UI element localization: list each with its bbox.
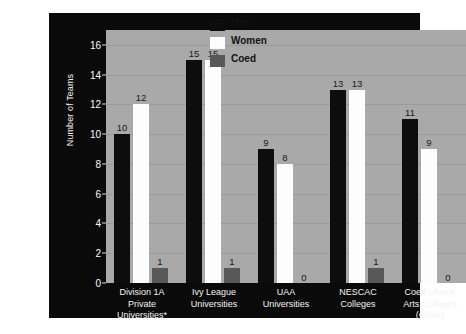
x-axis-label-line: Coed Liberal: [394, 287, 466, 299]
x-axis-label: UAAUniversities: [250, 287, 322, 310]
chart-panel: Number of Teams 0246810121416 1012115151…: [49, 13, 420, 318]
bar-value-label: 9: [426, 137, 431, 148]
y-tick-label: 10: [61, 129, 101, 140]
x-axis-label-line: (Other): [394, 310, 466, 322]
bar-value-label: 8: [282, 152, 287, 163]
bar-value-label: 1: [373, 256, 378, 267]
y-tick-label: 0: [61, 278, 101, 289]
y-tick-label: 12: [61, 99, 101, 110]
bar-value-label: 0: [445, 272, 450, 283]
bar-women[interactable]: 12: [133, 104, 150, 283]
bar-group: 1190: [394, 30, 466, 283]
legend-swatch-icon: [210, 37, 225, 49]
bar-group: 13131: [322, 30, 394, 283]
plot-area: 0246810121416 1012115151980131311190: [106, 30, 466, 283]
y-tick-label: 6: [61, 188, 101, 199]
bar-value-label: 13: [352, 78, 363, 89]
x-axis-label-line: Arts Colleges: [394, 299, 466, 311]
x-axis-label-line: Universities: [178, 299, 250, 311]
bar-men[interactable]: 15: [186, 60, 203, 283]
bar-value-label: 11: [405, 107, 415, 118]
bar-women[interactable]: 13: [349, 90, 366, 283]
bar-women[interactable]: 8: [277, 164, 294, 283]
legend-label: Women: [231, 35, 267, 46]
x-axis-label-line: UAA: [250, 287, 322, 299]
y-tick-label: 8: [61, 158, 101, 169]
x-axis-label-line: Private: [106, 299, 178, 311]
x-axis-labels: Division 1APrivateUniversities*Ivy Leagu…: [106, 287, 466, 331]
bar-value-label: 13: [333, 78, 344, 89]
x-axis-label-line: NESCAC: [322, 287, 394, 299]
bar-women[interactable]: 9: [421, 149, 438, 283]
bar-coed[interactable]: 1: [224, 268, 241, 283]
x-axis-label-line: Division 1A: [106, 287, 178, 299]
bar-value-label: 1: [157, 256, 162, 267]
legend-swatch-icon: [210, 55, 225, 67]
bar-coed[interactable]: 1: [368, 268, 385, 283]
bar-value-label: 0: [301, 272, 306, 283]
bar-group: 10121: [106, 30, 178, 283]
y-tick-label: 16: [61, 39, 101, 50]
legend-label: Men: [231, 17, 251, 28]
bar-coed[interactable]: 1: [152, 268, 169, 283]
x-axis-label-line: Colleges: [322, 299, 394, 311]
bar-value-label: 12: [136, 92, 147, 103]
x-axis-label: Coed LiberalArts Colleges(Other): [394, 287, 466, 322]
x-axis-label-line: Ivy League: [178, 287, 250, 299]
x-axis-label: Ivy LeagueUniversities: [178, 287, 250, 310]
x-axis-label: Division 1APrivateUniversities*: [106, 287, 178, 322]
bar-women[interactable]: 15: [205, 60, 222, 283]
y-tick-label: 14: [61, 69, 101, 80]
x-axis-label: NESCACColleges: [322, 287, 394, 310]
bar-men[interactable]: 13: [330, 90, 347, 283]
bar-men[interactable]: 10: [114, 134, 131, 283]
bar-value-label: 10: [117, 122, 128, 133]
bar-value-label: 15: [189, 48, 200, 59]
bar-men[interactable]: 9: [258, 149, 275, 283]
bar-group: 980: [250, 30, 322, 283]
x-axis-label-line: Universities: [250, 299, 322, 311]
legend-swatch-icon: [210, 19, 225, 31]
bar-men[interactable]: 11: [402, 119, 419, 283]
bar-value-label: 9: [263, 137, 268, 148]
bar-group: 15151: [178, 30, 250, 283]
y-tick-label: 2: [61, 248, 101, 259]
x-axis-label-line: Universities*: [106, 310, 178, 322]
legend-label: Coed: [231, 53, 256, 64]
y-tick-label: 4: [61, 218, 101, 229]
bar-value-label: 1: [229, 256, 234, 267]
